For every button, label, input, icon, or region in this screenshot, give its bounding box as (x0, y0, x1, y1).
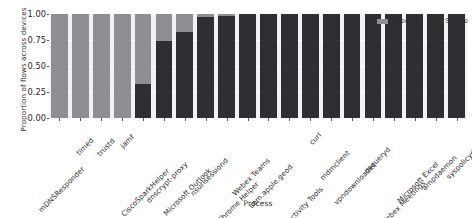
x-axis-tick-mark (310, 118, 311, 121)
bar-segment-insecure (51, 14, 68, 118)
bar-column (427, 14, 444, 118)
x-axis-tick-mark (415, 118, 416, 121)
x-axis-tick-mark (331, 118, 332, 121)
y-axis-tick-label: 0.25 (16, 88, 46, 96)
x-axis-tick-label: curl (308, 131, 324, 147)
x-axis-tick-mark (164, 118, 165, 121)
bar-column (281, 14, 298, 118)
bar-column (176, 14, 193, 118)
bar-column (365, 14, 382, 118)
bar-segment-insecure (93, 14, 110, 118)
x-axis-tick-label: mdmclient (318, 148, 352, 182)
bar-column (156, 14, 173, 118)
x-axis-tick-mark (436, 118, 437, 121)
bar-segment-secure (176, 32, 193, 118)
bar-segment-secure (281, 14, 298, 118)
bar-segment-insecure (197, 14, 214, 17)
bar-segment-insecure (72, 14, 89, 118)
bar-column (72, 14, 89, 118)
x-axis-tick-mark (248, 118, 249, 121)
bar-column (344, 14, 361, 118)
x-axis-tick-mark (59, 118, 60, 121)
y-axis-tick-mark (47, 40, 50, 41)
x-axis-tick-label: osqueryd (362, 145, 392, 175)
legend-swatch-insecure (377, 19, 388, 24)
x-axis-tick-mark (289, 118, 290, 121)
x-axis-tick-mark (101, 118, 102, 121)
bar-column (51, 14, 68, 118)
bar-column (448, 14, 465, 118)
bar-segment-insecure (114, 14, 131, 118)
plot-area (49, 14, 467, 118)
bar-segment-secure (427, 14, 444, 118)
bar-column (135, 14, 152, 118)
bar-segment-secure (344, 14, 361, 118)
x-axis-tick-mark (268, 118, 269, 121)
x-axis-tick-mark (352, 118, 353, 121)
bar-segment-secure (218, 16, 235, 118)
y-axis-tick-label: 0.50 (16, 62, 46, 70)
y-axis-tick-mark (47, 92, 50, 93)
bar-segment-insecure (156, 14, 173, 41)
x-axis-tick-mark (373, 118, 374, 121)
bar-column (323, 14, 340, 118)
bar-column (197, 14, 214, 118)
y-axis-tick-label: 0.00 (16, 114, 46, 122)
x-axis-tick-label: timed (75, 136, 96, 157)
legend-label-insecure: Insecure (391, 18, 419, 25)
bar-segment-secure (448, 14, 465, 118)
gridline (49, 92, 467, 93)
x-axis-tick-mark (143, 118, 144, 121)
gridline (49, 66, 467, 67)
bar-segment-insecure (218, 14, 235, 16)
legend-item-secure: Secure (431, 18, 468, 25)
bar-segment-secure (260, 14, 277, 118)
x-axis-tick-mark (185, 118, 186, 121)
bar-segment-secure (365, 14, 382, 118)
y-axis-tick-label: 1.00 (16, 10, 46, 18)
bar-segment-secure (156, 41, 173, 118)
bar-segment-secure (323, 14, 340, 118)
chart-figure: Proportion of flows across devices Proce… (0, 0, 472, 218)
legend-swatch-secure (431, 19, 442, 24)
gridline (49, 40, 467, 41)
bar-column (93, 14, 110, 118)
y-axis-tick-mark (47, 66, 50, 67)
chart-legend: Insecure Secure (377, 18, 468, 25)
bar-segment-secure (135, 84, 152, 118)
bar-column (239, 14, 256, 118)
legend-item-insecure: Insecure (377, 18, 419, 25)
x-axis-tick-mark (227, 118, 228, 121)
bar-column (302, 14, 319, 118)
bar-column (114, 14, 131, 118)
x-axis-tick-mark (394, 118, 395, 121)
bar-segment-secure (385, 14, 402, 118)
bar-segment-secure (406, 14, 423, 118)
bar-segment-insecure (176, 14, 193, 32)
bar-column (385, 14, 402, 118)
bar-segment-secure (197, 17, 214, 118)
x-axis-tick-mark (122, 118, 123, 121)
legend-label-secure: Secure (445, 18, 468, 25)
x-axis-tick-label: trustd (95, 136, 117, 158)
bar-segment-secure (302, 14, 319, 118)
bar-column (260, 14, 277, 118)
bar-column (218, 14, 235, 118)
y-axis-tick-label: 0.75 (16, 36, 46, 44)
bar-segment-secure (239, 14, 256, 118)
y-axis-tick-mark (47, 14, 50, 15)
bar-column (406, 14, 423, 118)
bar-segment-insecure (135, 14, 152, 84)
gridline (49, 14, 467, 15)
y-axis-tick-mark (47, 118, 50, 119)
x-axis-tick-mark (457, 118, 458, 121)
x-axis-tick-mark (206, 118, 207, 121)
x-axis-tick-label: jamf (118, 132, 136, 150)
x-axis-tick-mark (80, 118, 81, 121)
gridline (49, 118, 467, 119)
